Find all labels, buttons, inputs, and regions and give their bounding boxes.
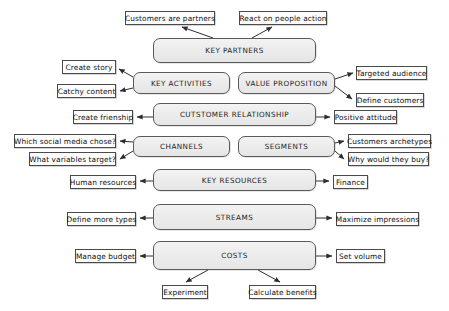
note-label: Positive attitude bbox=[333, 113, 399, 122]
block-value-proposition[interactable]: VALUE PROPOSITION bbox=[238, 72, 335, 94]
note-label: Set volume bbox=[337, 252, 384, 261]
note-label: Catchy content bbox=[56, 87, 118, 96]
connector-costs-to-experiment bbox=[186, 270, 208, 282]
note-label: Experiment bbox=[161, 288, 209, 297]
note-positive-attitude[interactable]: Positive attitude bbox=[334, 110, 397, 124]
note-human-resources[interactable]: Human resources bbox=[70, 175, 136, 189]
note-label: Customers are partners bbox=[123, 14, 217, 23]
note-define-customers[interactable]: Define customers bbox=[356, 93, 424, 107]
note-manage-budget[interactable]: Manage budget bbox=[75, 249, 136, 263]
block-key-resources[interactable]: KEY RESOURCES bbox=[153, 169, 316, 191]
block-streams[interactable]: STREAMS bbox=[153, 204, 316, 230]
note-react-on-people-action[interactable]: React on people action bbox=[239, 11, 327, 25]
block-costs[interactable]: COSTS bbox=[153, 241, 316, 270]
note-experiment[interactable]: Experiment bbox=[162, 285, 208, 299]
note-create-frienship[interactable]: Create frienship bbox=[73, 110, 133, 124]
note-label: Manage budget bbox=[74, 252, 137, 261]
connector-value-proposition-to-targeted-audience bbox=[335, 73, 353, 79]
note-define-more-types[interactable]: Define more types bbox=[67, 212, 136, 226]
note-label: Which social media chose? bbox=[12, 137, 118, 146]
note-what-variables-target[interactable]: What variables target? bbox=[29, 152, 116, 166]
note-calculate-benefits[interactable]: Calculate benefits bbox=[249, 285, 316, 299]
note-label: Human resources bbox=[68, 178, 138, 187]
block-key-partners[interactable]: KEY PARTNERS bbox=[153, 38, 316, 63]
connector-segments-to-why-would-they-buy bbox=[335, 151, 344, 159]
note-create-story[interactable]: Create story bbox=[62, 60, 116, 74]
note-label: React on people action bbox=[237, 14, 328, 23]
note-label: Targeted audience bbox=[355, 69, 429, 78]
note-label: Maximize impressions bbox=[334, 215, 422, 224]
block-customer-relationship[interactable]: CUTSTOMER RELATIONSHIP bbox=[153, 103, 316, 126]
note-catchy-content[interactable]: Catchy content bbox=[57, 84, 116, 98]
connector-costs-to-calculate-benefits bbox=[258, 270, 280, 282]
note-why-would-they-buy[interactable]: Why would they buy? bbox=[348, 152, 429, 166]
note-label: Create story bbox=[64, 63, 115, 72]
note-label: What variables target? bbox=[27, 155, 117, 164]
connector-key-partners-to-customers-are-partners bbox=[182, 27, 213, 38]
connector-value-proposition-to-define-customers bbox=[335, 86, 352, 99]
connector-segments-to-customers-archetypes bbox=[335, 141, 344, 143]
block-channels[interactable]: CHANNELS bbox=[133, 136, 230, 157]
connector-key-activities-to-create-story bbox=[119, 69, 133, 77]
note-finance[interactable]: Finance bbox=[333, 175, 368, 189]
connector-key-activities-to-catchy-content bbox=[120, 88, 133, 91]
connector-key-partners-to-react-on-people-action bbox=[252, 27, 272, 38]
note-which-social-media-chose[interactable]: Which social media chose? bbox=[14, 134, 116, 148]
note-customers-are-partners[interactable]: Customers are partners bbox=[125, 11, 215, 25]
note-label: Calculate benefits bbox=[246, 288, 319, 297]
note-label: Define more types bbox=[64, 215, 138, 224]
block-key-activities[interactable]: KEY ACTIVITIES bbox=[133, 72, 230, 94]
note-set-volume[interactable]: Set volume bbox=[336, 249, 385, 263]
note-label: Define customers bbox=[355, 96, 426, 105]
connector-channels-to-what-variables-target bbox=[120, 151, 133, 159]
note-label: Finance bbox=[334, 178, 367, 187]
note-targeted-audience[interactable]: Targeted audience bbox=[356, 66, 427, 80]
note-label: Create frienship bbox=[71, 113, 136, 122]
block-segments[interactable]: SEGMENTS bbox=[238, 136, 335, 157]
connector-channels-to-which-social-media-chose bbox=[120, 141, 133, 142]
note-customers-archetypes[interactable]: Customers archetypes bbox=[348, 134, 431, 148]
note-label: Customers archetypes bbox=[345, 137, 434, 146]
note-label: Why would they buy? bbox=[346, 155, 431, 164]
note-maximize-impressions[interactable]: Maximize impressions bbox=[336, 212, 419, 226]
business-model-diagram: KEY PARTNERSKEY ACTIVITIESVALUE PROPOSIT… bbox=[0, 0, 449, 311]
